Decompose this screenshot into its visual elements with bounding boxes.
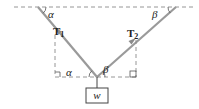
angle-alpha-bottom-label: α	[66, 66, 72, 78]
alpha-top-arc-icon	[43, 7, 46, 13]
right-angle-right-icon	[130, 71, 136, 77]
angle-beta-bottom-label: β	[102, 63, 109, 75]
cable-right	[97, 7, 176, 77]
tension-t1-label: T1	[53, 25, 64, 39]
alpha-bottom-arc-icon	[89, 71, 92, 77]
weight-label: w	[93, 89, 101, 101]
angle-alpha-top-label: α	[48, 8, 54, 20]
beta-top-arc-icon	[168, 7, 170, 13]
right-angle-left-icon	[55, 72, 60, 77]
force-diagram: α β α β T1 T2 w	[0, 0, 199, 109]
angle-beta-top-label: β	[151, 8, 158, 20]
tension-t2-label: T2	[127, 27, 138, 41]
